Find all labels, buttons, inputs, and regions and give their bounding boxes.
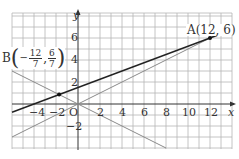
fraction-x: 12 7 <box>29 48 42 69</box>
y-tick-label: 4 <box>71 54 78 65</box>
x-tick-label: 10 <box>182 107 196 118</box>
x-tick-label: 4 <box>119 107 126 118</box>
y-axis-label: y <box>73 10 79 21</box>
x-tick-label: −4 <box>29 107 45 118</box>
point-b <box>57 93 61 97</box>
y-tick-label: −2 <box>66 121 82 132</box>
point-b-name: B <box>2 52 11 64</box>
point-a-label: A(12, 6) <box>186 24 237 36</box>
x-tick-label: −2 <box>49 107 65 118</box>
fraction-y: 6 7 <box>48 48 56 69</box>
origin-label: O <box>69 107 78 118</box>
point-b-label: B ( − 12 7 , 6 7 ) <box>2 47 65 69</box>
x-tick-label: 6 <box>141 107 148 118</box>
y-tick-label: 2 <box>71 77 78 88</box>
x-tick-label: 12 <box>204 107 218 118</box>
x-axis-label: x <box>228 107 234 118</box>
y-tick-label: 6 <box>71 32 78 43</box>
x-tick-label: 2 <box>97 107 104 118</box>
x-tick-label: 8 <box>163 107 170 118</box>
